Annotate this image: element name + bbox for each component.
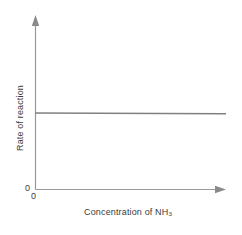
y-axis-title-wrapper: Rate of reaction bbox=[13, 66, 27, 170]
x-axis-arrow-icon bbox=[215, 186, 226, 193]
x-axis-origin-label: 0 bbox=[31, 192, 36, 201]
y-axis-arrow-icon bbox=[32, 15, 39, 26]
y-axis-title: Rate of reaction bbox=[16, 85, 25, 151]
x-axis-title-subscript: 3 bbox=[168, 210, 172, 217]
y-axis-origin-label: 0 bbox=[25, 184, 30, 193]
x-axis-title: Concentration of NH3 bbox=[0, 208, 242, 217]
x-axis-title-text: Concentration of NH bbox=[84, 207, 168, 217]
data-line-series-0 bbox=[35, 113, 226, 114]
plot-area bbox=[0, 0, 242, 235]
chart-figure: Rate of reaction Concentration of NH3 0 … bbox=[0, 0, 242, 235]
